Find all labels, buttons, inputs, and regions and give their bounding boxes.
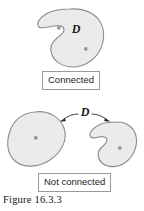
connected-region-group: D bbox=[38, 9, 104, 67]
not-connected-label-box: Not connected bbox=[38, 173, 111, 192]
leader-arrow-right-head bbox=[105, 118, 110, 121]
leader-arrow-right-curve bbox=[92, 114, 106, 119]
leader-arrow-left-curve bbox=[64, 114, 78, 119]
region-label-D-bottom: D bbox=[80, 105, 90, 119]
figure-container: D D Connected Not connected Figure 16.3.… bbox=[0, 0, 144, 211]
connected-point-marker-1 bbox=[57, 26, 60, 29]
connected-point-marker-2 bbox=[84, 47, 87, 50]
region-label-D-top: D bbox=[71, 22, 81, 36]
leader-arrow-left-head bbox=[61, 118, 66, 121]
figure-caption: Figure 16.3.3 bbox=[3, 194, 62, 205]
disconnected-point-marker-left bbox=[34, 136, 37, 139]
connected-region-shape bbox=[38, 9, 104, 67]
connected-label-box: Connected bbox=[42, 71, 100, 90]
not-connected-region-group: D bbox=[8, 105, 137, 167]
disconnected-point-marker-right bbox=[118, 146, 121, 149]
disconnected-region-right-shape bbox=[90, 122, 137, 167]
